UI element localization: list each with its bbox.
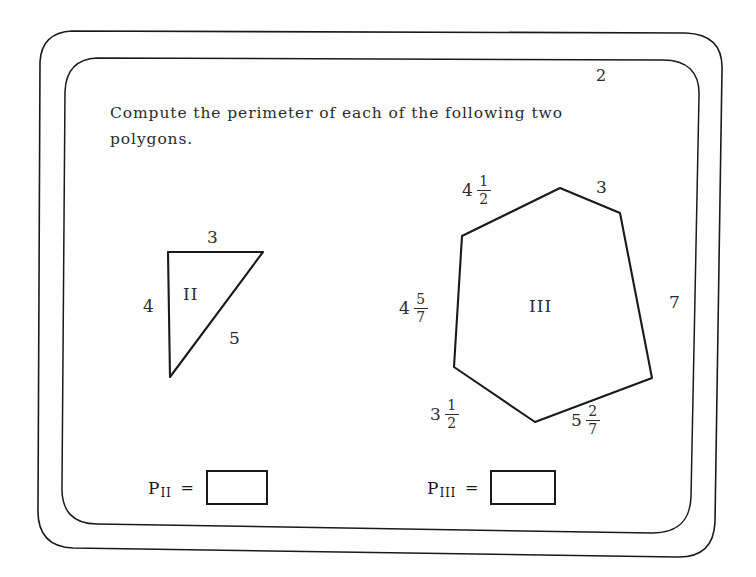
- mixed-number: 5 2 7: [571, 404, 600, 436]
- fraction: 1 2: [445, 398, 458, 430]
- equals-sign-ii: =: [181, 478, 194, 497]
- perimeter-subscript: III: [439, 485, 456, 500]
- polygon-ii-label-top: 3: [207, 227, 218, 247]
- polygon-iii-label-right: 7: [669, 292, 680, 312]
- fraction-numerator: 1: [445, 398, 458, 414]
- answer-box-polygon-iii[interactable]: [490, 470, 556, 505]
- polygon-ii-name: II: [183, 284, 198, 304]
- perimeter-symbol-ii: P II: [148, 478, 171, 498]
- fraction-denominator: 7: [586, 420, 599, 437]
- polygon-iii-label-lower-right: 5 2 7: [571, 404, 600, 436]
- mixed-whole: 5: [571, 412, 582, 429]
- mixed-number: 4 5 7: [399, 292, 428, 324]
- fraction-numerator: 2: [586, 404, 599, 420]
- polygon-iii-name: III: [529, 296, 552, 316]
- fraction: 2 7: [586, 404, 599, 436]
- answer-row-polygon-ii: P II =: [148, 470, 268, 505]
- polygon-ii-label-hypotenuse: 5: [229, 328, 240, 348]
- fraction: 5 7: [414, 292, 427, 324]
- mixed-whole: 4: [462, 182, 473, 199]
- worksheet-artwork: [0, 0, 756, 577]
- fraction-numerator: 1: [477, 174, 490, 190]
- mixed-whole: 3: [430, 406, 441, 423]
- mixed-number: 4 1 2: [462, 174, 491, 206]
- polygon-ii-label-left: 4: [143, 296, 154, 316]
- polygon-iii-label-upper-left: 4 1 2: [462, 174, 491, 206]
- mixed-number: 3 1 2: [430, 398, 459, 430]
- page-corner-number: 2: [596, 66, 607, 85]
- answer-row-polygon-iii: P III =: [427, 470, 556, 505]
- equals-sign-iii: =: [465, 478, 478, 497]
- polygon-iii-label-left: 4 5 7: [399, 292, 428, 324]
- fraction-denominator: 2: [477, 190, 490, 207]
- fraction-denominator: 2: [445, 414, 458, 431]
- fraction: 1 2: [477, 174, 490, 206]
- polygon-iii-label-upper-right: 3: [596, 177, 607, 197]
- mixed-whole: 4: [399, 300, 410, 317]
- answer-box-polygon-ii[interactable]: [206, 470, 268, 505]
- instruction-text: Compute the perimeter of each of the fol…: [110, 100, 580, 152]
- perimeter-symbol-iii: P III: [427, 478, 455, 498]
- perimeter-letter: P: [427, 478, 438, 498]
- perimeter-letter: P: [148, 478, 159, 498]
- worksheet-page: 2 Compute the perimeter of each of the f…: [0, 0, 756, 577]
- polygon-iii-outline: [454, 188, 652, 422]
- fraction-denominator: 7: [414, 308, 427, 325]
- polygon-ii-outline: [168, 252, 263, 377]
- polygon-iii-label-lower-left: 3 1 2: [430, 398, 459, 430]
- fraction-numerator: 5: [414, 292, 427, 308]
- perimeter-subscript: II: [160, 485, 171, 500]
